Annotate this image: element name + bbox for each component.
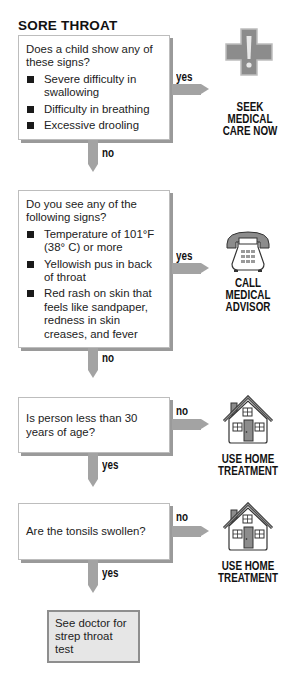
house-icon [222,395,274,445]
telephone-icon [224,230,272,274]
house-icon [222,502,274,552]
arrow-down-icon [88,453,98,479]
bullet-square-icon [27,231,34,238]
branch-label-yes: yes [176,70,192,84]
outcome-call-medical-advisor: CALL MEDICAL ADVISOR [215,277,281,313]
arrow-right-icon [172,84,201,95]
bullet-item: Difficulty in breathing [26,103,163,116]
arrow-down-icon [88,560,98,585]
bullet-square-icon [27,290,34,297]
bullet-square-icon [27,122,34,129]
question-text: Is person less than 30 years of age? [26,412,163,439]
question-box-4: Are the tonsils swollen? [18,503,170,560]
question-text: Does a child show any of these signs? [26,43,163,70]
branch-label-yes: yes [176,249,192,263]
question-text: Are the tonsils swollen? [26,525,146,538]
arrow-right-icon [172,419,201,430]
branch-label-no: no [176,404,188,418]
branch-label-no: no [176,510,188,524]
question-text: Do you see any of the following signs? [26,198,163,225]
bullet-item: Yellowish pus in back of throat [26,258,163,285]
arrow-right-icon [172,263,201,274]
branch-label-no: no [102,146,114,160]
question-box-3: Is person less than 30 years of age? [18,397,170,453]
medical-cross-icon [225,28,273,76]
branch-label-yes: yes [102,458,118,472]
branch-label-no: no [102,351,114,365]
final-recommendation-box: See doctor for strep throat test [47,610,140,663]
bullet-item: Severe difficulty in swallowing [26,73,163,100]
bullet-item: Red rash on skin that feels like sandpap… [26,287,163,341]
arrow-right-icon [172,526,201,537]
outcome-use-home-treatment: USE HOME TREATMENT [214,560,283,584]
bullet-square-icon [27,76,34,83]
outcome-seek-medical-care: SEEK MEDICAL CARE NOW [217,101,283,137]
bullet-square-icon [27,106,34,113]
arrow-down-icon [88,348,98,370]
bullet-square-icon [27,261,34,268]
bullet-item: Excessive drooling [26,119,163,132]
branch-label-yes: yes [102,566,118,580]
flowchart-title: SORE THROAT [18,18,117,33]
outcome-use-home-treatment: USE HOME TREATMENT [214,453,283,477]
question-box-2: Do you see any of the following signs? T… [18,190,170,348]
arrow-down-icon [88,140,98,164]
question-box-1: Does a child show any of these signs? Se… [18,35,170,140]
bullet-item: Temperature of 101°F (38° C) or more [26,228,163,255]
